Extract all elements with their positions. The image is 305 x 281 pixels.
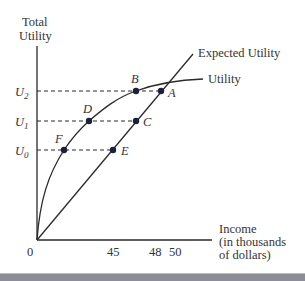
x-axis-title-line3: of dollars) <box>219 248 271 262</box>
point-a-label: A <box>167 86 176 100</box>
point-f-label: F <box>54 132 63 146</box>
u1-tick-label: U1 <box>15 115 29 131</box>
point-e-dot <box>110 147 116 153</box>
point-c-dot <box>133 118 139 124</box>
point-a-dot <box>158 88 164 94</box>
point-d-label: D <box>82 102 92 116</box>
x-axis-title-line2: (in thousands <box>219 235 286 249</box>
y-axis-title-line2: Utility <box>19 29 52 43</box>
x-tick-48: 48 <box>149 245 162 259</box>
y-axis-title-line1: Total <box>22 15 48 29</box>
point-f-dot <box>61 147 67 153</box>
u2-tick-label: U2 <box>15 85 29 101</box>
bottom-gray-bar <box>0 273 305 281</box>
point-c-label: C <box>143 115 152 129</box>
point-b-label: B <box>131 72 139 86</box>
origin-label: 0 <box>27 245 33 259</box>
utility-curve <box>37 79 203 240</box>
x-axis-title-line1: Income <box>219 222 257 236</box>
utility-label: Utility <box>208 72 241 86</box>
point-e-label: E <box>120 144 129 158</box>
expected-utility-label: Expected Utility <box>198 46 281 60</box>
x-tick-50: 50 <box>169 245 182 259</box>
x-tick-45: 45 <box>107 245 120 259</box>
point-b-dot <box>133 88 139 94</box>
point-d-dot <box>86 118 92 124</box>
u0-tick-label: U0 <box>15 144 29 160</box>
